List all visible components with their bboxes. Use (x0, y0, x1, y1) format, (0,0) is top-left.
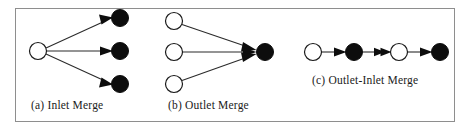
panel-a-caption: (a) Inlet Merge (31, 99, 103, 111)
c-node-4 (432, 44, 449, 61)
panel-b-group (166, 13, 274, 93)
panel-a-group (30, 10, 129, 93)
panel-b-caption: (b) Outlet Merge (168, 99, 249, 111)
a-edge-top (46, 15, 113, 49)
c-node-2 (346, 44, 363, 61)
a-source (30, 43, 47, 60)
b-source-mid (166, 44, 183, 61)
a-edge-mid (47, 47, 114, 56)
a-target-mid (112, 43, 129, 60)
b-edge-top (182, 25, 257, 52)
b-edge-bottom (182, 53, 257, 81)
a-target-bottom (112, 76, 129, 93)
c-edge-1 (322, 48, 347, 57)
panel-c-caption: (c) Outlet-Inlet Merge (312, 74, 418, 86)
c-edge-3 (408, 48, 433, 57)
a-edge-bottom (46, 54, 113, 88)
b-source-bottom (166, 76, 183, 93)
figure-container: (a) Inlet Merge (b) Outlet Merge (c) Out… (0, 0, 471, 131)
c-edge-2 (363, 48, 392, 56)
b-source-top (166, 13, 183, 30)
b-target (257, 44, 274, 61)
a-target-top (112, 10, 129, 27)
merge-diagram (0, 0, 471, 131)
c-node-3 (391, 44, 408, 61)
panel-c-group (305, 44, 449, 61)
c-node-1 (305, 44, 322, 61)
